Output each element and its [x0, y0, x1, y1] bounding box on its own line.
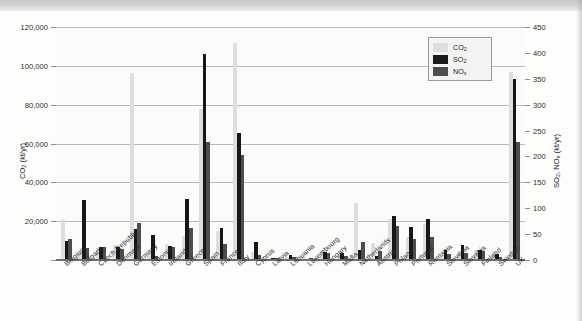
bar-group [127, 27, 144, 260]
y-tick-label-left: 120,000 [21, 23, 48, 32]
y-axis-right-title: SO2, NOx (kt/yr) [551, 133, 560, 187]
scan-artifact-band [0, 0, 582, 11]
bar-nox [241, 155, 245, 260]
bar-group [506, 27, 523, 260]
y-tick-right [525, 208, 530, 209]
y-tick-label-right: 450 [533, 23, 546, 32]
y-tick-right [525, 27, 530, 28]
legend-label-nox: NOx [453, 67, 466, 76]
y-tick-label-left: 20,000 [25, 217, 48, 226]
bar-group [196, 27, 213, 260]
bar-group [385, 27, 402, 260]
legend-item-co2: CO2 [433, 41, 487, 53]
x-axis-labels: BelgiumBulgariaCzech RepublicDenmarkGerm… [56, 262, 525, 320]
bar-group [58, 27, 75, 260]
bar-group [161, 27, 178, 260]
bar-group [230, 27, 247, 260]
legend-swatch-nox [433, 67, 448, 76]
bar-nox [516, 142, 520, 260]
y-tick-right [525, 182, 530, 183]
bar-group [282, 27, 299, 260]
y-tick-label-right: 50 [533, 230, 541, 239]
y-tick-label-left: 100,000 [21, 61, 48, 70]
legend-label-so2: SO2 [453, 55, 466, 64]
y-tick-label-right: 200 [533, 152, 546, 161]
bar-group [334, 27, 351, 260]
legend-item-nox: NOx [433, 65, 487, 77]
chart-figure: 20,00040,00060,00080,000100,000120,000 0… [0, 0, 582, 321]
y-tick-right [525, 53, 530, 54]
y-tick-label-right: 350 [533, 74, 546, 83]
scan-artifact-edge [576, 0, 582, 321]
bar-group [402, 27, 419, 260]
bar-group [179, 27, 196, 260]
y-tick-label-left: 60,000 [25, 139, 48, 148]
bar-nox [396, 226, 400, 260]
y-tick-label-right: 0 [533, 256, 537, 265]
bar-group [351, 27, 368, 260]
y-tick-left [51, 260, 56, 261]
bar-group [110, 27, 127, 260]
y-tick-label-right: 400 [533, 48, 546, 57]
y-tick-label-left: 80,000 [25, 100, 48, 109]
bar-group [92, 27, 109, 260]
bar-group [213, 27, 230, 260]
bar-group [265, 27, 282, 260]
y-axis-left-title: CO2 (kt/yr) [18, 142, 27, 178]
y-tick-right [525, 156, 530, 157]
bar-nox [206, 142, 210, 260]
bar-group [316, 27, 333, 260]
y-tick-right [525, 105, 530, 106]
y-tick-right [525, 131, 530, 132]
legend-label-co2: CO2 [453, 43, 467, 52]
bar-group [247, 27, 264, 260]
y-tick-label-left: 40,000 [25, 178, 48, 187]
y-tick-label-right: 100 [533, 204, 546, 213]
chart-legend: CO2 SO2 NOx [428, 37, 492, 81]
bar-group [75, 27, 92, 260]
y-tick-label-right: 300 [533, 100, 546, 109]
bar-group [368, 27, 385, 260]
y-tick-label-right: 250 [533, 126, 546, 135]
legend-swatch-so2 [433, 55, 448, 64]
legend-swatch-co2 [433, 43, 448, 52]
y-tick-label-right: 150 [533, 178, 546, 187]
bar-group [299, 27, 316, 260]
y-tick-right [525, 79, 530, 80]
legend-item-so2: SO2 [433, 53, 487, 65]
y-tick-right [525, 234, 530, 235]
bar-group [144, 27, 161, 260]
